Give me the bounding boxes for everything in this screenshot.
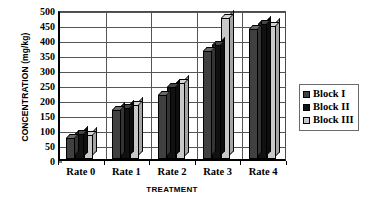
bar-block-i-rate-0 <box>66 138 75 159</box>
y-axis-tick-label: 200 <box>40 97 55 107</box>
bar-side-face <box>121 102 125 156</box>
legend-item: Block II <box>303 101 354 114</box>
legend-swatch-icon <box>303 104 310 111</box>
y-axis-tick-label: 50 <box>45 142 55 152</box>
y-axis-tick-labels: 050100150200250300350400450500 <box>26 11 58 161</box>
x-axis-tick-labels: Rate 0Rate 1Rate 2Rate 3Rate 4 <box>58 166 286 182</box>
y-axis-tick-label: 150 <box>40 112 55 122</box>
bar-block-i-rate-4 <box>249 29 258 160</box>
plot-area <box>58 11 286 161</box>
legend-item: Block I <box>303 88 354 101</box>
y-axis-tick-label: 450 <box>40 22 55 32</box>
y-axis-tick-label: 400 <box>40 37 55 47</box>
x-axis-tick-label: Rate 3 <box>195 166 241 177</box>
bar-block-i-rate-1 <box>112 110 121 160</box>
bar-side-face <box>176 79 180 155</box>
y-axis-tick-label: 500 <box>40 7 55 17</box>
legend-swatch-icon <box>303 117 310 124</box>
bar-side-face <box>276 18 280 156</box>
bar-block-i-rate-2 <box>158 95 167 160</box>
bar-side-face <box>258 21 262 156</box>
x-axis-tick-label: Rate 1 <box>104 166 150 177</box>
x-axis-title: TREATMENT <box>58 185 286 194</box>
bar-front-face <box>158 95 167 160</box>
y-axis-tick-label: 0 <box>50 157 55 167</box>
bar-front-face <box>112 110 121 160</box>
bar-front-face <box>203 51 212 159</box>
legend-item-label: Block III <box>313 115 354 126</box>
x-axis-tick-mark <box>195 161 196 165</box>
legend-swatch-icon <box>303 91 310 98</box>
x-axis-tick-label: Rate 2 <box>149 166 195 177</box>
x-axis-tick-mark <box>104 161 105 165</box>
y-axis-tick-label: 250 <box>40 82 55 92</box>
x-axis-tick-mark <box>286 161 287 165</box>
x-axis-tick-mark <box>240 161 241 165</box>
x-axis-tick-mark <box>58 161 59 165</box>
bar-side-face <box>267 16 271 155</box>
bar-chart: CONCENTRATION (mg/kg) 050100150200250300… <box>0 0 375 224</box>
bar-side-face <box>185 75 189 156</box>
bar-side-face <box>139 97 143 155</box>
bar-side-face <box>130 100 134 155</box>
bar-block-i-rate-3 <box>203 51 212 159</box>
chart-legend: Block IBlock IIBlock III <box>299 84 359 131</box>
x-axis-tick-label: Rate 0 <box>58 166 104 177</box>
legend-item-label: Block II <box>313 102 349 113</box>
y-axis-tick-label: 350 <box>40 52 55 62</box>
bar-series-container <box>60 12 285 159</box>
y-axis-tick-label: 300 <box>40 67 55 77</box>
bar-front-face <box>249 29 258 160</box>
bar-side-face <box>212 43 216 155</box>
bar-front-face <box>66 138 75 159</box>
x-axis-tick-label: Rate 4 <box>240 166 286 177</box>
bar-side-face <box>221 37 225 155</box>
legend-item: Block III <box>303 114 354 127</box>
bar-side-face <box>230 10 234 155</box>
x-axis-tick-mark <box>149 161 150 165</box>
legend-item-label: Block I <box>313 89 345 100</box>
bar-side-face <box>167 87 171 156</box>
y-axis-tick-label: 100 <box>40 127 55 137</box>
